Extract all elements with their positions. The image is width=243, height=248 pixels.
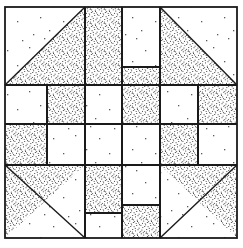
right-edge-square-plain-lower [198, 124, 237, 165]
right-edge-square-plain-upper [160, 85, 198, 124]
left-edge-square-plain-upper [5, 85, 47, 124]
top-edge-square-stipple-right [122, 67, 160, 124]
top-edge-square-stipple-left [85, 7, 122, 85]
left-edge-square-stipple-lower [5, 124, 47, 165]
bottom-edge-square-plain-right [122, 165, 160, 205]
left-edge-square-plain-lower [47, 124, 85, 165]
left-edge-square-stipple-upper [47, 85, 85, 124]
right-edge-square-stipple-upper [198, 85, 237, 124]
quilt-block-drawing [0, 0, 243, 248]
quilt-block-figure [0, 0, 243, 248]
right-edge-square-stipple-lower [160, 124, 198, 165]
bottom-edge-square-stipple-left [85, 165, 122, 213]
bottom-edge-square-plain-left [85, 213, 122, 238]
top-edge-square-plain-right [122, 7, 160, 67]
bottom-edge-square-stipple-right [122, 205, 160, 238]
